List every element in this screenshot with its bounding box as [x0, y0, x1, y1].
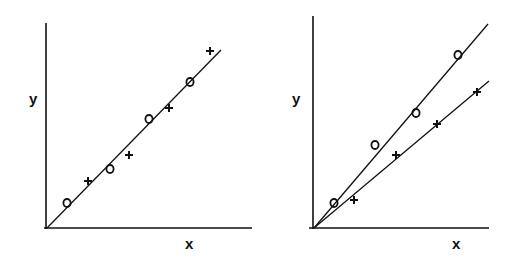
left-x-axis-label: x [185, 236, 193, 251]
plots-canvas [0, 0, 514, 262]
right-x-axis-label: x [452, 236, 460, 251]
figure: y x y x [0, 0, 514, 262]
left-plus-markers [84, 47, 214, 185]
left-fit-line [47, 50, 221, 228]
right-y-axis-label: y [292, 91, 300, 106]
right-circle-markers [330, 51, 461, 207]
right-plus-markers [350, 88, 481, 204]
left-y-axis-label: y [29, 91, 37, 106]
right-plus-fit-line [314, 81, 489, 228]
